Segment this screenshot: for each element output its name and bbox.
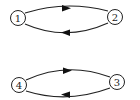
node-4: 4 <box>12 78 27 93</box>
node-1-label: 1 <box>15 13 21 24</box>
arrowhead-left-icon <box>61 30 70 37</box>
node-2-label: 2 <box>112 12 118 23</box>
arrowhead-right-icon <box>63 68 72 75</box>
node-3: 3 <box>110 75 125 90</box>
node-2: 2 <box>108 10 123 25</box>
node-3-label: 3 <box>114 77 120 88</box>
node-4-label: 4 <box>16 80 22 91</box>
node-1: 1 <box>11 11 26 26</box>
graph-canvas: 1 2 3 4 <box>0 0 140 100</box>
